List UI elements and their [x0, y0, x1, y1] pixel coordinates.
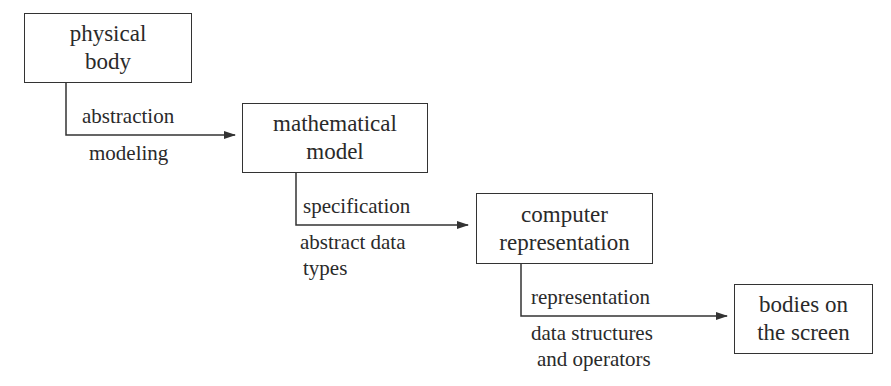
- box-label: physical: [70, 20, 147, 48]
- arrow-3-label-below: data structures: [531, 321, 653, 346]
- box-label: bodies on: [759, 291, 848, 319]
- box-label: representation: [499, 229, 629, 257]
- box-label: computer: [521, 201, 608, 229]
- diagram-canvas: physical body mathematical model compute…: [0, 0, 891, 386]
- box-label: model: [306, 138, 364, 166]
- box-label: mathematical: [273, 110, 397, 138]
- box-bodies-on-screen: bodies on the screen: [734, 284, 873, 354]
- box-label: body: [85, 48, 131, 76]
- arrow-1-label-below: modeling: [89, 141, 168, 166]
- box-physical-body: physical body: [24, 13, 192, 83]
- arrow-2-label-above: specification: [303, 194, 410, 219]
- arrow-3-label-below-2: and operators: [537, 347, 651, 372]
- arrow-1-label-above: abstraction: [82, 104, 174, 129]
- box-computer-representation: computer representation: [476, 193, 653, 264]
- box-label: the screen: [757, 319, 850, 347]
- arrow-3-label-above: representation: [531, 285, 650, 310]
- arrow-2-label-below-2: types: [303, 256, 347, 281]
- box-mathematical-model: mathematical model: [242, 103, 428, 173]
- arrow-2-label-below: abstract data: [300, 230, 406, 255]
